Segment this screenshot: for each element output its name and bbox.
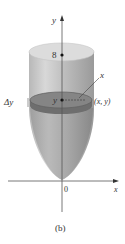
y-axis-label: y (51, 15, 56, 25)
radius-label: x (99, 70, 104, 80)
x-axis-label: x (113, 185, 118, 194)
x-axis-arrow-icon (113, 179, 119, 183)
y-axis-arrow-icon (60, 15, 64, 21)
paraboloid-lower-shading (30, 108, 93, 180)
slab-height-label: y (52, 95, 57, 105)
figure-caption: (b) (55, 223, 66, 233)
delta-y-label: Δy (3, 97, 13, 107)
solid-of-revolution-diagram: y 8 x Δy y (x, y) 0 x (b) (0, 0, 125, 244)
origin-label: 0 (64, 185, 68, 194)
top-level-label: 8 (52, 50, 57, 60)
point-label: (x, y) (94, 97, 111, 106)
point-8-dot (60, 53, 63, 56)
top-surface-ellipse (29, 43, 94, 61)
